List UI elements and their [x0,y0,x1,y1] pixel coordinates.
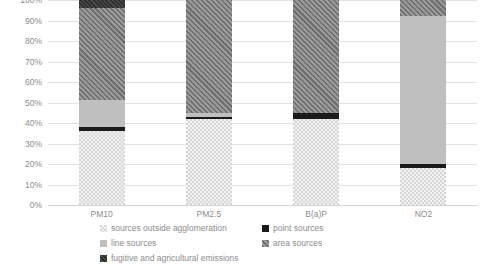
legend-item-label: point sources [273,224,324,233]
y-axis-tick-label: 30% [25,139,42,148]
bar-segment[interactable] [400,168,446,205]
stacked-bar[interactable] [400,0,446,205]
bar-segment[interactable] [79,100,125,127]
y-axis: 0%10%20%30%40%50%60%70%80%90%100% [0,0,46,205]
bar-segment[interactable] [293,119,339,205]
plot-area: 0%10%20%30%40%50%60%70%80%90%100% [0,0,483,205]
bar-slot-b-a-p [263,0,370,205]
light-checker-icon [100,225,107,232]
x-axis-tick-label: PM10 [48,205,155,223]
chart-legend: sources outside agglomerationpoint sourc… [0,224,483,269]
solid-black-icon [262,225,269,232]
x-axis-tick-label: B(a)P [263,205,370,223]
bar-segment[interactable] [400,16,446,164]
y-axis-tick-label: 60% [25,78,42,87]
legend-item-label: fugitive and agricultural emissions [111,254,239,263]
legend-item-label: area sources [273,239,322,248]
bar-slot-pm2-5 [155,0,262,205]
bar-segment[interactable] [293,0,339,113]
bar-segment[interactable] [79,131,125,205]
x-axis-tick-label: PM2.5 [155,205,262,223]
stacked-bar[interactable] [293,0,339,205]
y-axis-tick-label: 40% [25,119,42,128]
y-axis-tick-label: 0% [30,201,42,210]
stacked-bar[interactable] [186,0,232,205]
legend-item[interactable]: fugitive and agricultural emissions [100,254,239,263]
solid-light-grey-icon [100,240,107,247]
bar-segment[interactable] [79,0,125,8]
y-axis-tick-label: 20% [25,160,42,169]
dark-speckle-icon [100,255,107,262]
bar-segment[interactable] [400,0,446,16]
legend-item[interactable]: point sources [262,224,324,233]
bar-segment[interactable] [186,119,232,205]
bar-segment[interactable] [79,8,125,100]
y-axis-tick-label: 70% [25,57,42,66]
y-axis-tick-label: 80% [25,37,42,46]
legend-item[interactable]: line sources [100,239,156,248]
x-axis: PM10PM2.5B(a)PNO2 [48,205,477,223]
y-axis-tick-label: 50% [25,98,42,107]
legend-item-label: sources outside agglomeration [111,224,227,233]
stacked-bar[interactable] [79,0,125,205]
legend-item[interactable]: sources outside agglomeration [100,224,227,233]
y-axis-tick-label: 100% [20,0,42,4]
legend-item-label: line sources [111,239,156,248]
x-axis-tick-label: NO2 [370,205,477,223]
bar-slot-pm10 [48,0,155,205]
y-axis-tick-label: 90% [25,16,42,25]
legend-item[interactable]: area sources [262,239,322,248]
dark-diagonal-hatch-icon [262,240,269,247]
y-axis-tick-label: 10% [25,180,42,189]
bar-series-container [48,0,477,205]
bar-segment[interactable] [186,0,232,113]
stacked-bar-chart: 0%10%20%30%40%50%60%70%80%90%100% PM10PM… [0,0,483,269]
bar-slot-no2 [370,0,477,205]
